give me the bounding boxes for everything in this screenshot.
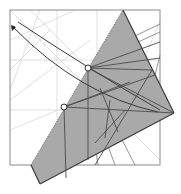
- arrow-head-icon: [11, 25, 16, 31]
- reference-point-upper: [85, 65, 91, 71]
- folded-flap: [31, 10, 174, 184]
- origami-diagram: [0, 0, 181, 194]
- reference-point-lower: [61, 104, 67, 110]
